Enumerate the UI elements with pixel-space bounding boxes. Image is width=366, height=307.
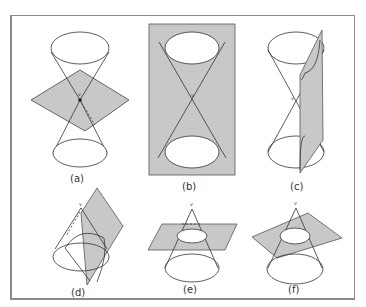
panel-c: v (c): [268, 30, 324, 192]
panel-a: v (a): [31, 32, 129, 184]
svg-text:(c): (c): [290, 181, 303, 192]
conic-sections-diagram: v (a) v (b) v (c): [0, 0, 366, 307]
svg-text:v: v: [190, 201, 193, 207]
panel-f: v (f): [252, 200, 342, 295]
svg-text:(a): (a): [70, 173, 84, 184]
svg-text:v: v: [291, 95, 294, 101]
svg-text:(b): (b): [182, 181, 196, 192]
panel-b: v (b): [149, 24, 235, 192]
panel-e: v (e): [148, 201, 237, 295]
svg-text:(f): (f): [288, 284, 299, 295]
svg-text:(e): (e): [183, 284, 197, 295]
svg-text:v: v: [191, 92, 194, 98]
svg-text:(d): (d): [71, 287, 85, 298]
panel-d: v (d): [53, 188, 123, 298]
svg-text:v: v: [294, 200, 297, 206]
svg-text:v: v: [78, 91, 81, 97]
svg-text:v: v: [79, 201, 82, 207]
